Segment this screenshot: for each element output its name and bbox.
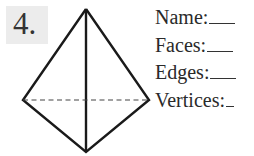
faces-blank[interactable] <box>207 51 233 52</box>
vertices-blank[interactable] <box>226 106 234 107</box>
faces-field[interactable]: Faces: <box>155 32 236 60</box>
vertices-field[interactable]: Vertices: <box>155 87 236 115</box>
name-blank[interactable] <box>209 23 235 24</box>
name-field[interactable]: Name: <box>155 4 236 32</box>
answer-fields: Name: Faces: Edges: Vertices: <box>155 4 236 114</box>
edges-blank[interactable] <box>210 78 236 79</box>
edges-field[interactable]: Edges: <box>155 59 236 87</box>
